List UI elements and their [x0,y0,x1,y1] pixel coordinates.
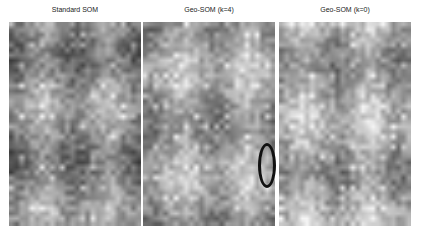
panel-title-geo-som-k4: Geo-SOM (k=4) [143,6,275,13]
highlight-ellipse [258,143,276,188]
panel-title-standard-som: Standard SOM [9,6,141,13]
umatrix-standard-som [9,22,141,226]
umatrix-geo-som-k4 [143,22,275,226]
panel-title-geo-som-k0: Geo-SOM (k=0) [279,6,411,13]
umatrix-geo-som-k0 [279,22,411,226]
